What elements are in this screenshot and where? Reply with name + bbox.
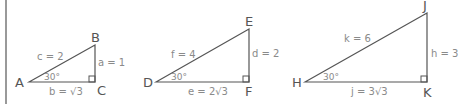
vertex-e-label: E — [245, 14, 253, 29]
vertex-c-label: C — [97, 83, 106, 98]
vertex-j-label: J — [422, 0, 427, 13]
side-h-label: h = 3 — [431, 48, 458, 59]
vertex-f-label: F — [245, 84, 252, 99]
triangle-def-shape — [156, 29, 249, 82]
triangle-abc: A B C c = 2 a = 1 b = √3 30° — [15, 30, 125, 98]
side-f-label: f = 4 — [171, 49, 196, 60]
vertex-b-label: B — [91, 30, 100, 45]
side-b-label: b = √3 — [49, 86, 83, 97]
triangle-hjk: H J K k = 6 h = 3 j = 3√3 30° — [292, 0, 458, 100]
angle-label: 30° — [323, 72, 339, 82]
side-j-label: j = 3√3 — [350, 86, 388, 97]
angle-label: 30° — [44, 72, 60, 82]
angle-label: 30° — [171, 72, 187, 82]
side-d-label: d = 2 — [252, 48, 279, 59]
right-angle-marker — [89, 76, 95, 82]
right-angle-marker — [421, 76, 427, 82]
side-e-label: e = 2√3 — [188, 86, 228, 97]
right-angle-marker — [243, 76, 249, 82]
vertex-d-label: D — [143, 75, 153, 90]
side-c-label: c = 2 — [37, 51, 64, 62]
vertex-k-label: K — [423, 85, 432, 100]
triangle-def: D E F f = 4 d = 2 e = 2√3 30° — [143, 14, 279, 99]
side-a-label: a = 1 — [98, 57, 125, 68]
vertex-h-label: H — [292, 75, 302, 90]
side-k-label: k = 6 — [344, 33, 371, 44]
vertex-a-label: A — [15, 75, 24, 90]
triangles-diagram: A B C c = 2 a = 1 b = √3 30° D E F f = 4… — [0, 0, 469, 104]
